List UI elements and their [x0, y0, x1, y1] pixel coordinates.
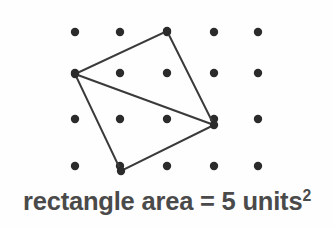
- shape-quadrilateral: [75, 31, 214, 171]
- grid-dot: [254, 28, 262, 36]
- grid-dot: [254, 115, 262, 123]
- grid-dot: [116, 28, 124, 36]
- caption-row: rectangle area = 5 units2: [0, 182, 334, 222]
- grid-dot: [163, 115, 171, 123]
- grid-dot: [116, 69, 124, 77]
- grid-dot: [254, 162, 262, 170]
- vertex-marker-layer: [71, 27, 218, 175]
- grid-dot: [210, 69, 218, 77]
- grid-dot: [71, 162, 79, 170]
- shape-layer: [75, 31, 214, 171]
- shape-vertex-dot: [210, 121, 218, 129]
- caption-prefix: rectangle area = 5 units: [23, 187, 302, 215]
- area-caption: rectangle area = 5 units2: [23, 189, 311, 215]
- grid-dot: [163, 69, 171, 77]
- shape-vertex-dot: [163, 27, 171, 35]
- shape-vertex-dot: [71, 70, 79, 78]
- geoboard-figure: rectangle area = 5 units2: [0, 0, 334, 228]
- grid-dot: [71, 115, 79, 123]
- grid-dot: [254, 69, 262, 77]
- shape-vertex-dot: [117, 167, 125, 175]
- caption-exponent: 2: [302, 187, 311, 204]
- grid-dot: [163, 162, 171, 170]
- grid-dot: [210, 162, 218, 170]
- grid-dot: [116, 115, 124, 123]
- grid-dot: [210, 28, 218, 36]
- grid-dot: [71, 28, 79, 36]
